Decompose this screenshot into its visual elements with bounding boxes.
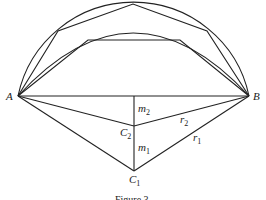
geometry-diagram: A B m2 C2 m1 C1 r2 r1 Figure 3 bbox=[0, 0, 266, 200]
radius-a-c2 bbox=[18, 96, 134, 126]
outer-polygon bbox=[18, 4, 249, 96]
label-c1: C1 bbox=[129, 173, 140, 188]
figure-caption: Figure 3 bbox=[115, 194, 149, 200]
label-m2: m2 bbox=[138, 102, 150, 117]
radius-r1 bbox=[134, 96, 249, 171]
label-m1: m1 bbox=[138, 141, 150, 156]
label-r1: r1 bbox=[193, 131, 201, 146]
label-r2: r2 bbox=[180, 113, 188, 128]
label-c2: C2 bbox=[120, 126, 131, 141]
radius-r2 bbox=[134, 96, 249, 126]
inner-polygon bbox=[18, 40, 249, 96]
label-b: B bbox=[253, 90, 260, 102]
label-a: A bbox=[5, 90, 13, 102]
radius-a-c1 bbox=[18, 96, 134, 171]
outer-arc bbox=[18, 2, 249, 96]
